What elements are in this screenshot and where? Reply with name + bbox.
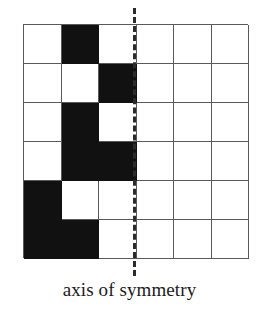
axis-of-symmetry-line: [133, 8, 136, 276]
grid-cell-r4-c3: [99, 142, 137, 181]
grid-cell-r3-c1: [24, 103, 62, 142]
grid-cell-r4-c6: [212, 142, 250, 181]
grid-cell-r6-c4: [137, 220, 175, 259]
grid-cell-r3-c5: [174, 103, 212, 142]
grid-cell-r4-c1: [24, 142, 62, 181]
grid-cell-r2-c5: [174, 64, 212, 103]
grid-cell-r4-c4: [137, 142, 175, 181]
grid-cell-r1-c2: [62, 25, 100, 64]
grid-cell-r1-c6: [212, 25, 250, 64]
symmetry-figure: axis of symmetry: [0, 0, 259, 313]
grid-cell-r6-c5: [174, 220, 212, 259]
grid-cell-r1-c3: [99, 25, 137, 64]
grid-cell-r6-c2: [62, 220, 100, 259]
grid-cell-r2-c4: [137, 64, 175, 103]
grid-cell-r5-c6: [212, 181, 250, 220]
grid-cell-r3-c4: [137, 103, 175, 142]
grid-cell-r6-c3: [99, 220, 137, 259]
grid-cell-r1-c4: [137, 25, 175, 64]
grid-cell-r4-c2: [62, 142, 100, 181]
grid-cell-r5-c3: [99, 181, 137, 220]
grid-cell-r2-c6: [212, 64, 250, 103]
grid-cell-r3-c6: [212, 103, 250, 142]
grid-cell-r5-c5: [174, 181, 212, 220]
grid-cell-r3-c2: [62, 103, 100, 142]
grid-cell-r6-c1: [24, 220, 62, 259]
axis-of-symmetry-caption: axis of symmetry: [0, 278, 259, 302]
grid-cell-r6-c6: [212, 220, 250, 259]
grid-cell-r1-c1: [24, 25, 62, 64]
grid-cell-r2-c2: [62, 64, 100, 103]
grid-cell-r5-c1: [24, 181, 62, 220]
grid-cell-r1-c5: [174, 25, 212, 64]
grid-cell-r5-c2: [62, 181, 100, 220]
grid-cell-r3-c3: [99, 103, 137, 142]
grid-cell-r5-c4: [137, 181, 175, 220]
grid-cell-r2-c1: [24, 64, 62, 103]
grid-cell-r2-c3: [99, 64, 137, 103]
grid-cell-r4-c5: [174, 142, 212, 181]
